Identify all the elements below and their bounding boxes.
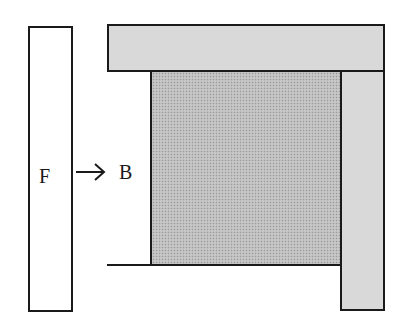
bottom-strip (107, 264, 342, 311)
right-gray-strip (340, 70, 385, 311)
label-f: F (39, 166, 50, 186)
label-b: B (119, 162, 132, 182)
center-stippled-square (150, 70, 342, 266)
top-gray-strip (107, 24, 385, 72)
strip-f (28, 26, 73, 312)
arrow-right-icon (75, 162, 106, 182)
